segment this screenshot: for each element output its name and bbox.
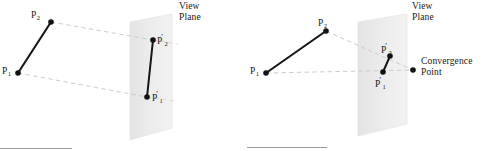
point-label-p1-right: P1 — [250, 66, 259, 78]
view-plane-label-left-line2: Plane — [179, 12, 201, 22]
prime-mark-p2-left: ′ — [161, 33, 163, 42]
point-label-p2-right-sub: 2 — [324, 22, 327, 29]
prime-mark-p1-right: ′ — [379, 76, 381, 85]
point-dot-p2-left — [48, 19, 54, 25]
point-label-p2-prime-right: P′2 — [381, 42, 392, 57]
point-dot-p1-prime-right — [380, 69, 386, 75]
point-label-p1-left-sub: 1 — [8, 70, 11, 77]
point-label-p1-prime-right-sub: 1 — [383, 83, 386, 90]
view-plane-label-left-line1: View — [179, 1, 200, 11]
projector-line-p1-left — [18, 73, 147, 97]
prime-mark-p2-right: ′ — [385, 42, 387, 51]
point-dot-p1-right — [263, 70, 269, 76]
point-label-p1-right-sub: 1 — [256, 70, 259, 77]
prime-mark-p1-left: ′ — [156, 90, 158, 99]
figure-root: View Plane P2 P1 P′2 P′1 View Plane P2 P… — [0, 0, 483, 151]
right-panel-group — [247, 14, 416, 148]
point-dot-p1-prime-left — [144, 94, 150, 100]
point-dot-convergence-point — [410, 67, 416, 73]
convergence-point-label-line2: Point — [421, 67, 442, 77]
object-segment-left — [18, 22, 51, 73]
view-plane-right — [358, 14, 407, 136]
view-plane-label-right: View Plane — [412, 1, 456, 23]
point-label-p2-left-sub: 2 — [37, 14, 40, 21]
diagram-vector-layer — [0, 0, 483, 151]
point-label-p1-prime-left-sub: 1 — [160, 97, 163, 104]
point-label-p1-right-base: P — [250, 66, 255, 76]
point-label-p2-prime-left: P′2 — [157, 33, 168, 48]
point-dot-p1-left — [15, 70, 21, 76]
left-panel-group — [0, 14, 178, 149]
point-label-p1-prime-right: P′1 — [375, 76, 386, 91]
convergence-point-label-line1: Convergence — [421, 56, 473, 66]
point-label-p2-right: P2 — [318, 18, 327, 30]
point-label-p2-prime-right-sub: 2 — [389, 49, 392, 56]
view-plane-label-right-line2: Plane — [412, 12, 434, 22]
view-plane-label-right-line1: View — [412, 1, 433, 11]
view-plane-label-left: View Plane — [179, 1, 223, 23]
point-label-p2-left-base: P — [31, 10, 36, 20]
point-label-p2-left: P2 — [31, 10, 40, 22]
point-label-p2-prime-left-sub: 2 — [165, 40, 168, 47]
point-label-p1-left: P1 — [2, 66, 11, 78]
point-label-p1-prime-left: P′1 — [152, 90, 163, 105]
point-label-p1-left-base: P — [2, 66, 7, 76]
point-dot-p2-prime-left — [150, 37, 156, 43]
convergence-point-label: Convergence Point — [421, 56, 483, 78]
point-label-p2-right-base: P — [318, 18, 323, 28]
object-segment-right — [266, 31, 326, 73]
